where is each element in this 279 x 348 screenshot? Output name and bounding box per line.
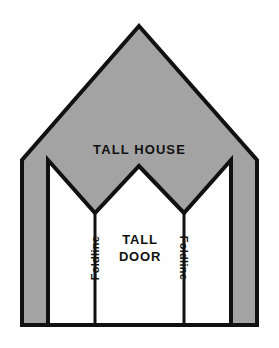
door-title-label: TALL DOOR [98, 231, 182, 265]
foldline-left-label: Foldline [89, 221, 101, 295]
foldline-right-label: Foldline [178, 221, 190, 295]
door-title-line-1: TALL [122, 232, 157, 247]
house-title-label: TALL HOUSE [0, 142, 279, 157]
door-title-line-2: DOOR [98, 248, 182, 265]
house-body-shape [22, 26, 257, 325]
tall-house-diagram [0, 0, 279, 348]
diagram-canvas: TALL HOUSE TALL DOOR Foldline Foldline [0, 0, 279, 348]
